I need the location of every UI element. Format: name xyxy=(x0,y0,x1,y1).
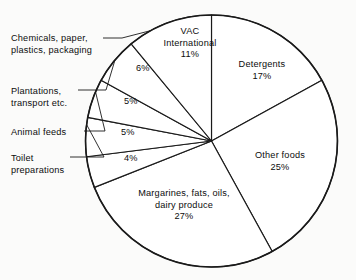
slice-value-plantations: 5% xyxy=(124,96,138,106)
callout-label-plantations: Plantations, transport etc. xyxy=(11,85,67,110)
slice-label-vac-line-2: International xyxy=(148,38,232,50)
slice-value-chemicals: 6% xyxy=(136,63,150,73)
callout-label-toilet-line-2: preparations xyxy=(11,164,64,176)
callout-label-animal-feeds-line-1: Animal feeds xyxy=(11,126,66,138)
slice-label-vac-international: VAC International 11% xyxy=(148,26,232,61)
callout-label-chemicals-line-2: plastics, packaging xyxy=(11,44,92,56)
slice-value-toilet-preparations: 4% xyxy=(124,153,138,163)
slice-label-margarines-line-2: dairy produce xyxy=(110,200,258,212)
slice-value-other-foods: 25% xyxy=(240,162,320,174)
slice-value-detergents: 17% xyxy=(224,71,300,83)
callout-label-chemicals-line-1: Chemicals, paper, xyxy=(11,32,92,44)
slice-value-vac-international: 11% xyxy=(148,49,232,61)
slice-value-margarines: 27% xyxy=(110,211,258,223)
callout-label-animal-feeds: Animal feeds xyxy=(11,126,66,138)
slice-value-animal-feeds: 5% xyxy=(121,127,135,137)
slice-label-other-foods-line-1: Other foods xyxy=(240,150,320,162)
slice-label-detergents: Detergents 17% xyxy=(224,59,300,82)
slice-label-vac-line-1: VAC xyxy=(148,26,232,38)
callout-label-toilet-line-1: Toilet xyxy=(11,152,64,164)
callout-label-chemicals: Chemicals, paper, plastics, packaging xyxy=(11,32,92,57)
slice-label-other-foods: Other foods 25% xyxy=(240,150,320,173)
callout-label-plantations-line-1: Plantations, xyxy=(11,85,67,97)
pie-chart-figure: Detergents 17% Other foods 25% Margarine… xyxy=(0,0,356,280)
callout-label-plantations-line-2: transport etc. xyxy=(11,97,67,109)
slice-label-margarines-line-1: Margarines, fats, oils, xyxy=(110,188,258,200)
slice-label-detergents-line-1: Detergents xyxy=(224,59,300,71)
slice-label-margarines: Margarines, fats, oils, dairy produce 27… xyxy=(110,188,258,223)
callout-label-toilet-preparations: Toilet preparations xyxy=(11,152,64,177)
